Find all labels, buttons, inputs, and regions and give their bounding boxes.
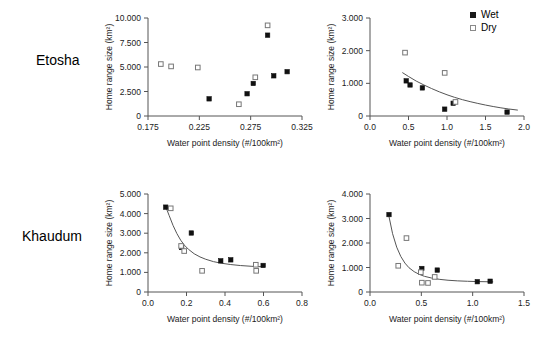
row-label-etosha: Etosha bbox=[36, 52, 80, 68]
data-point-wet bbox=[265, 33, 269, 37]
x-tick-label: 0.0 bbox=[364, 298, 376, 308]
data-point-dry bbox=[169, 64, 174, 69]
chart-etosha-left: 02.5005.0007.50010.0000.1750.2250.2750.3… bbox=[100, 4, 310, 152]
data-point-dry bbox=[404, 236, 409, 241]
data-point-wet bbox=[229, 258, 233, 262]
x-tick-label: 1.5 bbox=[518, 298, 530, 308]
data-point-wet bbox=[189, 231, 193, 235]
y-axis-title: Home range size (km²) bbox=[326, 200, 336, 287]
data-point-wet bbox=[475, 280, 479, 284]
x-axis-title: Water point density (#/100km²) bbox=[389, 314, 505, 324]
x-tick-label: 2.0 bbox=[518, 122, 530, 132]
y-tick-label: 10.000 bbox=[115, 13, 141, 23]
data-point-wet bbox=[435, 268, 439, 272]
x-tick-label: 0.2 bbox=[181, 298, 193, 308]
trendline bbox=[389, 217, 493, 282]
x-tick-label: 0.6 bbox=[258, 298, 270, 308]
y-tick-label: 0 bbox=[136, 287, 141, 297]
data-point-dry bbox=[419, 270, 424, 275]
plot-area-etosha-left: 02.5005.0007.50010.0000.1750.2250.2750.3… bbox=[100, 4, 310, 152]
x-tick-label: 0.5 bbox=[415, 298, 427, 308]
y-tick-label: 0 bbox=[358, 111, 363, 121]
x-tick-label: 0.0 bbox=[364, 122, 376, 132]
data-point-dry bbox=[179, 244, 184, 249]
y-tick-label: 3.000 bbox=[342, 214, 364, 224]
y-tick-label: 7.500 bbox=[120, 38, 142, 48]
y-axis-title: Home range size (km²) bbox=[326, 24, 336, 111]
data-point-dry bbox=[159, 62, 164, 67]
data-point-dry bbox=[420, 280, 425, 285]
y-tick-label: 5.000 bbox=[120, 189, 142, 199]
data-point-dry bbox=[453, 100, 458, 105]
x-axis-title: Water point density (#/100km²) bbox=[167, 138, 283, 148]
x-tick-label: 0.5 bbox=[403, 122, 415, 132]
data-point-wet bbox=[408, 83, 412, 87]
data-point-dry bbox=[182, 249, 187, 254]
y-tick-label: 0 bbox=[136, 111, 141, 121]
plot-area-khaudum-right: 01.0002.0003.0004.0000.00.51.01.5Water p… bbox=[322, 180, 532, 328]
data-point-dry bbox=[442, 71, 447, 76]
x-tick-label: 0.225 bbox=[189, 122, 211, 132]
trendline bbox=[402, 73, 517, 111]
trendline bbox=[165, 206, 263, 267]
data-point-wet bbox=[404, 79, 408, 83]
data-point-dry bbox=[237, 102, 242, 107]
x-tick-label: 1.5 bbox=[480, 122, 492, 132]
data-point-dry bbox=[265, 23, 270, 28]
data-point-dry bbox=[396, 263, 401, 268]
data-point-wet bbox=[251, 81, 255, 85]
data-point-wet bbox=[285, 70, 289, 74]
data-point-wet bbox=[442, 107, 446, 111]
plot-area-khaudum-left: 01.0002.0003.0004.0005.0000.00.20.40.60.… bbox=[100, 180, 310, 328]
x-tick-label: 0.8 bbox=[296, 298, 308, 308]
y-tick-label: 2.500 bbox=[120, 87, 142, 97]
row-label-khaudum: Khaudum bbox=[22, 228, 82, 244]
plot-area-etosha-right: 01.0002.0003.0000.00.51.01.52.0Water poi… bbox=[322, 4, 532, 152]
data-point-dry bbox=[253, 75, 258, 80]
data-point-dry bbox=[195, 65, 200, 70]
data-point-dry bbox=[254, 262, 259, 267]
y-tick-label: 3.000 bbox=[120, 228, 142, 238]
figure-panel-grid: Etosha Khaudum Wet Dry 02.5005.0007.5001… bbox=[0, 0, 554, 340]
y-tick-label: 1.000 bbox=[342, 263, 364, 273]
x-axis-title: Water point density (#/100km²) bbox=[389, 138, 505, 148]
y-tick-label: 3.000 bbox=[342, 13, 364, 23]
data-point-wet bbox=[387, 212, 391, 216]
data-point-wet bbox=[245, 92, 249, 96]
x-tick-label: 0.0 bbox=[142, 298, 154, 308]
data-point-dry bbox=[254, 269, 259, 274]
x-tick-label: 0.175 bbox=[137, 122, 159, 132]
x-tick-label: 1.0 bbox=[467, 298, 479, 308]
y-tick-label: 1.000 bbox=[342, 78, 364, 88]
data-point-wet bbox=[488, 279, 492, 283]
y-tick-label: 5.000 bbox=[120, 62, 142, 72]
y-tick-label: 4.000 bbox=[342, 189, 364, 199]
y-axis-title: Home range size (km²) bbox=[104, 24, 114, 111]
x-tick-label: 1.0 bbox=[441, 122, 453, 132]
data-point-wet bbox=[420, 86, 424, 90]
data-point-dry bbox=[200, 269, 205, 274]
data-point-wet bbox=[505, 110, 509, 114]
chart-etosha-right: 01.0002.0003.0000.00.51.01.52.0Water poi… bbox=[322, 4, 532, 152]
x-tick-label: 0.275 bbox=[240, 122, 262, 132]
data-point-dry bbox=[426, 281, 431, 286]
data-point-wet bbox=[207, 97, 211, 101]
x-tick-label: 0.325 bbox=[291, 122, 313, 132]
data-point-wet bbox=[219, 259, 223, 263]
data-point-wet bbox=[164, 205, 168, 209]
y-tick-label: 2.000 bbox=[342, 238, 364, 248]
chart-khaudum-left: 01.0002.0003.0004.0005.0000.00.20.40.60.… bbox=[100, 180, 310, 328]
chart-khaudum-right: 01.0002.0003.0004.0000.00.51.01.5Water p… bbox=[322, 180, 532, 328]
data-point-wet bbox=[272, 74, 276, 78]
data-point-dry bbox=[403, 50, 408, 55]
y-tick-label: 1.000 bbox=[120, 267, 142, 277]
y-tick-label: 4.000 bbox=[120, 209, 142, 219]
data-point-dry bbox=[432, 275, 437, 280]
x-tick-label: 0.4 bbox=[219, 298, 231, 308]
x-axis-title: Water point density (#/100km²) bbox=[167, 314, 283, 324]
data-point-dry bbox=[168, 206, 173, 211]
data-point-wet bbox=[261, 263, 265, 267]
y-tick-label: 2.000 bbox=[120, 248, 142, 258]
y-tick-label: 0 bbox=[358, 287, 363, 297]
y-axis-title: Home range size (km²) bbox=[104, 200, 114, 287]
